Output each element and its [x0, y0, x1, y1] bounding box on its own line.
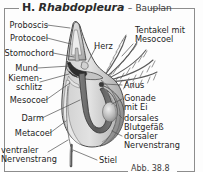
- leader-metacoel: [50, 121, 66, 133]
- leader-protocoel: [47, 38, 71, 44]
- figure-panel: H. Rhabdopleura – Bauplan: [0, 0, 203, 185]
- label-stiel: Stiel: [99, 156, 125, 165]
- herz-shape: [81, 62, 88, 69]
- label-darm: Darm: [2, 114, 44, 123]
- label-gonade-mit-ei: Gonade mit Ei: [124, 94, 168, 111]
- label-proboscis: Proboscis: [4, 21, 48, 30]
- label-mund: Mund: [2, 64, 38, 73]
- leader-proboscis: [47, 25, 70, 28]
- leader-stiel: [73, 150, 97, 160]
- label-tentakel-mit-mesocoel: Tentakel mit Mesocoel: [135, 26, 201, 43]
- label-metacoel: Metacoel: [2, 129, 52, 138]
- label-herz: Herz: [94, 42, 118, 51]
- label-protocoel: Protocoel: [4, 34, 48, 43]
- stiel-shape: [71, 145, 72, 166]
- label-dorsales-blutgefaess: dorsales Blutgefäß: [124, 114, 176, 131]
- label-ventraler-nervenstrang: ventraler Nervenstrang: [1, 146, 51, 163]
- figure-caption: Abb. 38.8: [131, 164, 170, 173]
- egg-shape: [103, 102, 118, 122]
- label-dorsaler-nervenstrang: dorsaler Nervenstrang: [124, 132, 184, 149]
- bottom-padding: [0, 172, 203, 185]
- label-mesocoel: Mesocoel: [2, 96, 48, 105]
- label-stomochord: Stomochord: [2, 49, 54, 58]
- label-anus: Anus: [124, 81, 150, 90]
- label-kiemenschlitz: Kiemen- schlitz: [2, 74, 42, 91]
- leader-mund: [38, 66, 70, 68]
- leader-tentakel: [122, 44, 133, 56]
- leader-ventraler: [48, 140, 68, 152]
- anus-shape: [99, 82, 104, 87]
